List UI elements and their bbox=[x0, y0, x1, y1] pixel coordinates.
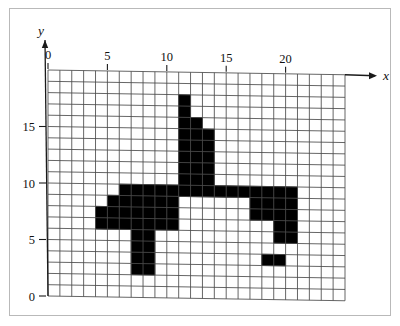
grid-cell-filled bbox=[143, 252, 155, 263]
grid-cell-filled bbox=[131, 230, 143, 241]
grid-cell-filled bbox=[119, 207, 131, 218]
grid-cell-filled bbox=[131, 263, 143, 274]
grid-cell-filled bbox=[119, 195, 131, 206]
grid-cell-filled bbox=[143, 241, 155, 252]
grid-cell-filled bbox=[179, 129, 191, 140]
grid-cell-filled bbox=[250, 198, 262, 209]
grid-cell-filled bbox=[155, 185, 167, 196]
grid-cell-filled bbox=[96, 206, 108, 217]
grid-cell-filled bbox=[143, 196, 155, 207]
grid-cell-filled bbox=[179, 162, 191, 173]
grid-cell-filled bbox=[131, 241, 143, 252]
grid-cell-filled bbox=[167, 219, 179, 230]
grid-cell-filled bbox=[107, 207, 119, 218]
grid-line-horizontal bbox=[48, 93, 345, 98]
grid-cell-filled bbox=[179, 185, 191, 196]
y-axis-tick-label: 5 bbox=[29, 233, 35, 247]
grid-line-horizontal bbox=[48, 228, 345, 233]
y-axis-name: y bbox=[36, 23, 44, 38]
figure-stage: 05101520051015yx bbox=[0, 0, 400, 326]
grid-line-horizontal bbox=[48, 285, 345, 290]
grid-cell-filled bbox=[179, 140, 191, 151]
grid-lines-layer bbox=[48, 70, 345, 301]
grid-cell-filled bbox=[286, 221, 298, 232]
grid-cell-filled bbox=[286, 232, 298, 243]
grid-cell-filled bbox=[143, 264, 155, 275]
y-axis-tick-label: 0 bbox=[29, 290, 35, 304]
x-axis-tick-label: 10 bbox=[161, 50, 174, 64]
grid-line-horizontal bbox=[48, 104, 345, 109]
grid-cell-filled bbox=[131, 207, 143, 218]
grid-cell-filled bbox=[131, 196, 143, 207]
grid-cell-filled bbox=[202, 174, 214, 185]
grid-cell-filled bbox=[238, 186, 250, 197]
pixel-grid-plot: 05101520051015yx bbox=[0, 0, 400, 326]
grid-line-horizontal bbox=[48, 296, 345, 301]
grid-cell-filled bbox=[202, 140, 214, 151]
grid-cell-filled bbox=[250, 209, 262, 220]
grid-line-horizontal bbox=[48, 240, 345, 245]
x-axis-tick-label: 0 bbox=[45, 48, 51, 62]
x-axis-tick-label: 15 bbox=[220, 51, 233, 65]
y-axis-tick-label: 15 bbox=[23, 120, 36, 134]
x-axis-tick-label: 20 bbox=[279, 52, 292, 66]
grid-cell-filled bbox=[96, 218, 108, 229]
grid-cell-filled bbox=[131, 184, 143, 195]
grid-cell-filled bbox=[191, 129, 203, 140]
grid-line-horizontal bbox=[48, 206, 345, 211]
grid-cell-filled bbox=[262, 198, 274, 209]
grid-cell-filled bbox=[262, 186, 274, 197]
grid-cell-filled bbox=[274, 209, 286, 220]
grid-cell-filled bbox=[286, 187, 298, 198]
grid-line-horizontal bbox=[48, 217, 345, 222]
grid-cell-filled bbox=[262, 254, 274, 265]
grid-cell-filled bbox=[119, 218, 131, 229]
grid-cell-filled bbox=[202, 129, 214, 140]
grid-cell-filled bbox=[143, 218, 155, 229]
grid-line-horizontal bbox=[48, 70, 345, 75]
grid-cell-filled bbox=[143, 185, 155, 196]
grid-line-horizontal bbox=[48, 251, 345, 256]
grid-cell-filled bbox=[202, 185, 214, 196]
x-axis-name: x bbox=[382, 68, 389, 83]
grid-cell-filled bbox=[107, 218, 119, 229]
grid-cell-filled bbox=[167, 185, 179, 196]
grid-cell-filled bbox=[274, 198, 286, 209]
grid-cell-filled bbox=[191, 185, 203, 196]
grid-cell-filled bbox=[131, 218, 143, 229]
grid-cell-filled bbox=[155, 207, 167, 218]
grid-cell-filled bbox=[226, 186, 238, 197]
grid-cell-filled bbox=[191, 140, 203, 151]
grid-cell-filled bbox=[179, 174, 191, 185]
grid-cell-filled bbox=[274, 187, 286, 198]
y-axis-line bbox=[45, 40, 48, 296]
grid-cell-filled bbox=[250, 186, 262, 197]
grid-cell-filled bbox=[179, 95, 191, 106]
grid-line-horizontal bbox=[48, 262, 345, 267]
grid-cell-filled bbox=[143, 207, 155, 218]
x-axis-arrowhead bbox=[369, 72, 377, 79]
grid-cell-filled bbox=[179, 151, 191, 162]
grid-cell-filled bbox=[143, 230, 155, 241]
grid-cell-filled bbox=[155, 196, 167, 207]
grid-cell-filled bbox=[286, 209, 298, 220]
grid-cell-filled bbox=[191, 151, 203, 162]
x-axis-tick-label: 5 bbox=[104, 49, 110, 63]
grid-cell-filled bbox=[262, 209, 274, 220]
grid-line-horizontal bbox=[48, 273, 345, 278]
filled-cells-layer bbox=[96, 95, 298, 275]
grid-line-horizontal bbox=[48, 81, 345, 86]
grid-cell-filled bbox=[274, 254, 286, 265]
grid-cell-filled bbox=[191, 163, 203, 174]
grid-cell-filled bbox=[286, 198, 298, 209]
grid-cell-filled bbox=[191, 174, 203, 185]
grid-cell-filled bbox=[167, 208, 179, 219]
y-axis-arrowhead bbox=[42, 40, 48, 48]
grid-cell-filled bbox=[179, 106, 191, 117]
grid-cell-filled bbox=[131, 252, 143, 263]
grid-cell-filled bbox=[214, 186, 226, 197]
grid-cell-filled bbox=[179, 117, 191, 128]
grid-cell-filled bbox=[202, 152, 214, 163]
grid-cell-filled bbox=[191, 117, 203, 128]
y-axis-tick-label: 10 bbox=[23, 177, 36, 191]
